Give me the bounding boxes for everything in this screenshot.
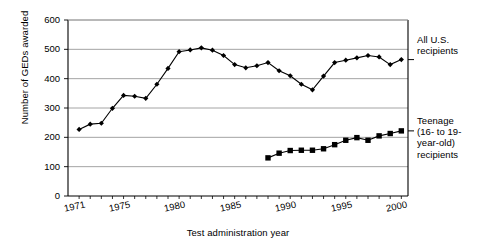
- y-tick-label: 0: [26, 190, 60, 201]
- y-tick-label: 400: [26, 73, 60, 84]
- series-layer: [77, 45, 405, 160]
- x-tick-marks: [64, 20, 401, 199]
- y-tick-label: 600: [26, 14, 60, 25]
- y-tick-label: 200: [26, 131, 60, 142]
- chart-plot: [0, 0, 477, 251]
- chart-figure: Number of GEDs awarded Test administrati…: [0, 0, 477, 251]
- legend-connectors: [408, 60, 414, 131]
- y-tick-label: 500: [26, 43, 60, 54]
- y-tick-label: 100: [26, 161, 60, 172]
- y-tick-label: 300: [26, 102, 60, 113]
- gridlines: [68, 20, 408, 167]
